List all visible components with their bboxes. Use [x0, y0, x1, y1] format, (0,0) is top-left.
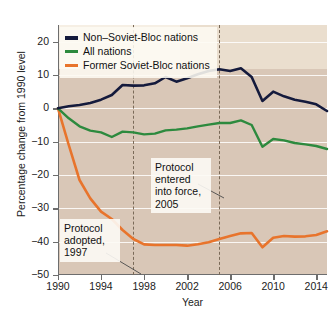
legend-item-former-soviet-bloc[interactable]: Former Soviet-Bloc nations [65, 59, 210, 73]
annotation-protocol-in-force: Protocol entered into force, 2005 [151, 158, 211, 213]
green-line-swatch-icon [65, 50, 78, 53]
annotation-line: entered [155, 173, 207, 185]
navy-line-swatch-icon [65, 36, 78, 39]
legend-label: Non–Soviet-Bloc nations [83, 31, 198, 45]
legend-item-all-nations[interactable]: All nations [65, 45, 210, 59]
annotation-protocol-adopted: Protocol adopted, 1997 [60, 219, 120, 262]
legend: Non–Soviet-Bloc nations All nations Form… [60, 27, 217, 78]
annotation-line: Protocol [64, 222, 116, 234]
annotation-line: 2005 [155, 198, 207, 210]
x-axis-title: Year [58, 296, 327, 308]
annotation-line: adopted, [64, 234, 116, 246]
legend-item-non-soviet-bloc[interactable]: Non–Soviet-Bloc nations [65, 31, 210, 45]
annotation-line: into force, [155, 185, 207, 197]
legend-label: All nations [83, 45, 131, 59]
annotation-line: Protocol [155, 161, 207, 173]
legend-label: Former Soviet-Bloc nations [83, 59, 210, 73]
figure: 20100−10−20−30−40−50 1990199419982002200… [0, 0, 336, 315]
annotation-line: 1997 [64, 246, 116, 258]
orange-line-swatch-icon [65, 64, 78, 67]
y-axis-title: Percentage change from 1990 level [15, 9, 27, 259]
